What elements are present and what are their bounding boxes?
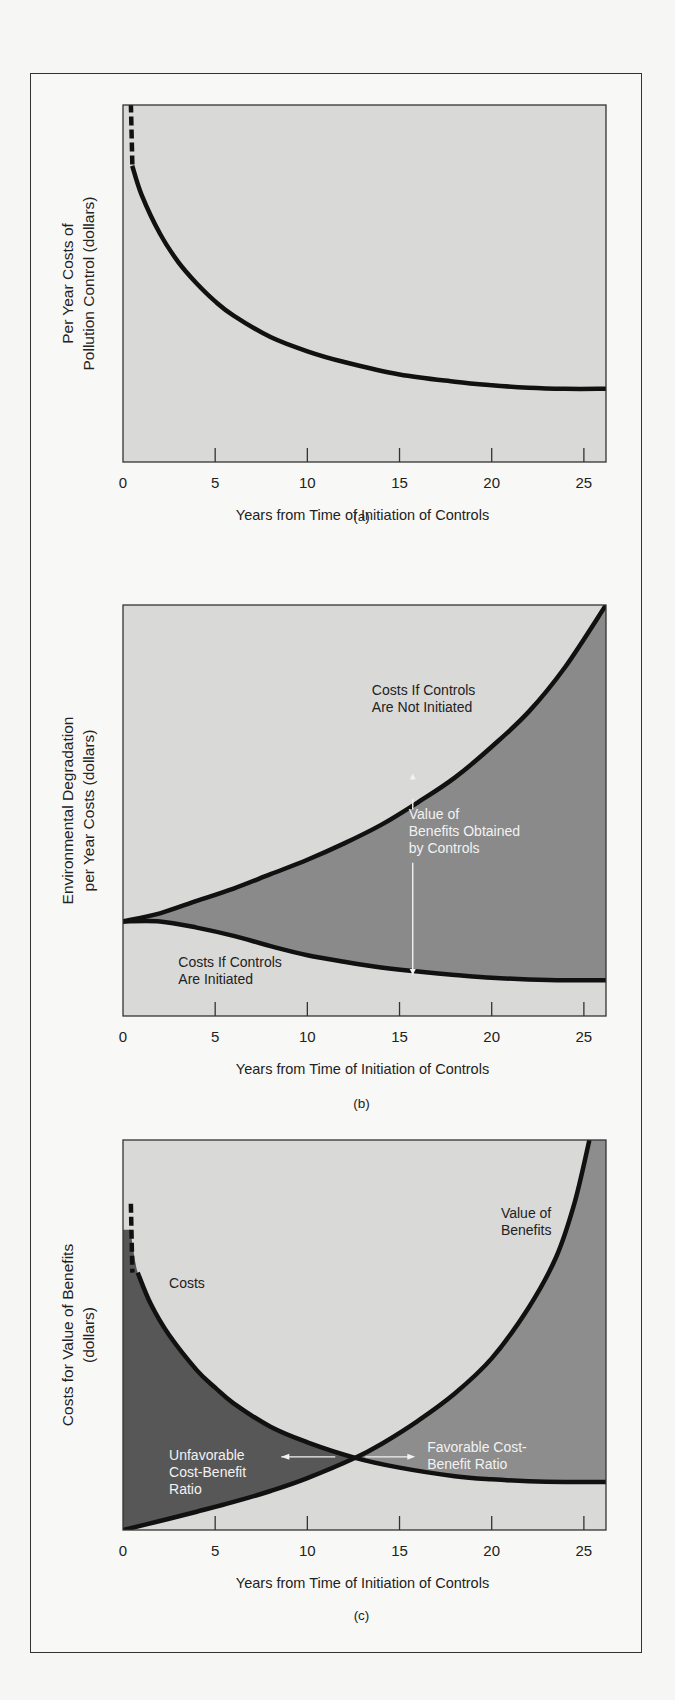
annotation-0: Costs bbox=[169, 1275, 205, 1291]
x-tick-label: 10 bbox=[299, 1028, 316, 1045]
x-tick-label: 20 bbox=[483, 1028, 500, 1045]
annotation-1: Value ofBenefits bbox=[501, 1205, 552, 1238]
chart-panel-a: 0510152025Years from Time of Initiation … bbox=[59, 104, 606, 524]
y-axis-label: Environmental Degradation bbox=[59, 717, 76, 905]
x-tick-label: 15 bbox=[391, 1028, 408, 1045]
x-tick-label: 25 bbox=[576, 1028, 593, 1045]
x-tick-label: 0 bbox=[119, 1542, 127, 1559]
x-tick-label: 0 bbox=[119, 1028, 127, 1045]
annotation-0: Costs If ControlsAre Not Initiated bbox=[372, 682, 475, 715]
x-tick-label: 15 bbox=[391, 1542, 408, 1559]
x-tick-label: 15 bbox=[391, 474, 408, 491]
x-tick-label: 5 bbox=[211, 474, 219, 491]
chart-panel-c: 0510152025Years from Time of Initiation … bbox=[59, 1140, 606, 1623]
y-axis-label: Costs for Value of Benefits bbox=[59, 1244, 76, 1427]
x-tick-label: 25 bbox=[576, 1542, 593, 1559]
x-tick-label: 5 bbox=[211, 1028, 219, 1045]
y-axis-label: Per Year Costs of bbox=[59, 222, 76, 343]
x-axis-label: Years from Time of Initiation of Control… bbox=[236, 1061, 489, 1077]
x-tick-label: 10 bbox=[299, 1542, 316, 1559]
x-tick-label: 0 bbox=[119, 474, 127, 491]
panel-caption: (b) bbox=[353, 1096, 370, 1111]
chart-panel-b: 0510152025Years from Time of Initiation … bbox=[59, 605, 606, 1111]
x-tick-label: 20 bbox=[483, 474, 500, 491]
y-axis-label: (dollars) bbox=[80, 1307, 97, 1363]
panel-caption: (a) bbox=[353, 509, 370, 524]
x-tick-label: 5 bbox=[211, 1542, 219, 1559]
panel-caption: (c) bbox=[354, 1608, 370, 1623]
x-tick-label: 20 bbox=[483, 1542, 500, 1559]
x-axis-label: Years from Time of Initiation of Control… bbox=[236, 1575, 489, 1591]
figure-svg: 0510152025Years from Time of Initiation … bbox=[0, 0, 675, 1700]
y-axis-label: per Year Costs (dollars) bbox=[80, 730, 97, 892]
x-tick-label: 25 bbox=[576, 474, 593, 491]
y-axis-label: Pollution Control (dollars) bbox=[80, 196, 97, 370]
x-tick-label: 10 bbox=[299, 474, 316, 491]
